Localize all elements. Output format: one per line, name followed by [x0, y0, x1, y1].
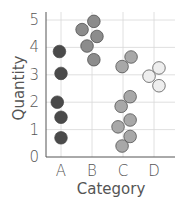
data-point — [112, 121, 125, 134]
data-point — [124, 114, 137, 127]
data-point — [81, 40, 94, 53]
y-tick-labels: 012345 — [29, 11, 39, 166]
data-point — [116, 60, 129, 73]
data-point — [88, 15, 101, 28]
x-tick-label: A — [56, 162, 66, 180]
data-point — [55, 132, 68, 145]
data-point — [91, 30, 104, 43]
x-tick-label: C — [118, 162, 128, 180]
data-point — [116, 140, 129, 153]
data-point — [115, 100, 128, 113]
scatter-chart: 012345 ABCD Category Quantity — [0, 0, 184, 208]
y-tick-label: 0 — [29, 148, 39, 166]
y-axis-label: Quantity — [10, 55, 28, 120]
y-tick-label: 4 — [29, 38, 39, 56]
x-axis-label: Category — [77, 180, 146, 198]
y-tick-label: 2 — [29, 93, 39, 111]
data-point — [51, 96, 64, 109]
x-tick-label: B — [87, 162, 97, 180]
x-tick-label: D — [148, 162, 160, 180]
data-point — [153, 79, 166, 92]
data-point — [143, 70, 156, 83]
data-point — [153, 62, 166, 75]
data-point — [125, 51, 138, 64]
x-tick-labels: ABCD — [56, 162, 160, 180]
data-point — [55, 111, 68, 124]
y-tick-label: 3 — [29, 66, 39, 84]
data-point — [55, 67, 68, 80]
data-point — [76, 23, 89, 36]
data-points — [51, 15, 165, 152]
data-point — [124, 90, 137, 103]
data-point — [88, 53, 101, 66]
y-tick-label: 5 — [29, 11, 39, 29]
data-point — [53, 45, 66, 58]
y-tick-label: 1 — [29, 121, 39, 139]
